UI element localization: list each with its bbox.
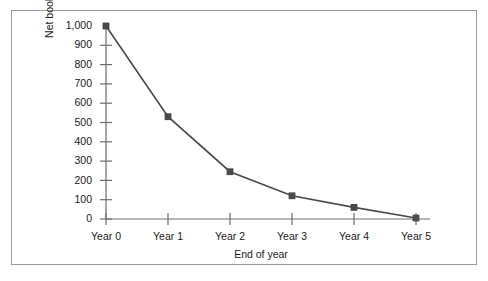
axis-lines xyxy=(106,26,430,219)
data-point-marker xyxy=(165,113,172,120)
data-markers xyxy=(103,23,420,222)
data-point-marker xyxy=(289,192,296,199)
data-line-net-book-value xyxy=(106,26,416,218)
chart-figure: 1,000 900 800 700 600 500 400 300 200 10… xyxy=(0,0,488,281)
data-point-marker xyxy=(227,168,234,175)
data-point-marker xyxy=(103,23,110,30)
data-point-marker xyxy=(351,204,358,211)
plot-area xyxy=(0,0,488,281)
data-point-marker xyxy=(413,215,420,222)
